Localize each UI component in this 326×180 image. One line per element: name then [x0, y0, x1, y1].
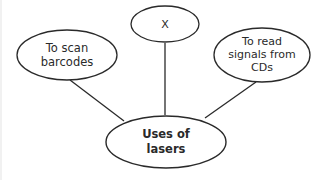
- node-label-line: barcodes: [41, 55, 94, 69]
- mind-map-diagram: To scan barcodes X To read signals from …: [0, 0, 326, 180]
- node-label-line: To read: [241, 35, 282, 48]
- node-label-line: lasers: [147, 142, 186, 156]
- node-label-line: X: [161, 18, 169, 31]
- node-uses-of-lasers: Uses of lasers: [106, 116, 226, 168]
- node-label-line: To scan: [45, 41, 88, 55]
- node-to-scan-barcodes: To scan barcodes: [17, 30, 117, 80]
- connector-right: [205, 82, 256, 118]
- connector-left: [70, 80, 124, 121]
- node-label-line: CDs: [251, 61, 273, 74]
- node-label-line: signals from: [228, 48, 295, 61]
- node-to-read-signals-from-cds: To read signals from CDs: [214, 28, 310, 82]
- node-label-line: Uses of: [142, 127, 191, 141]
- node-x: X: [131, 6, 199, 42]
